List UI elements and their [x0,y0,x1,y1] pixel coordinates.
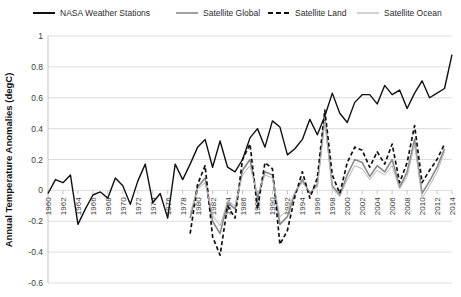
legend-label-3: Satellite Ocean [384,8,442,18]
x-tick-label-9: 1978 [179,197,188,215]
y-tick-label-8: -0.6 [28,278,43,288]
legend-label-2: Satellite Land [295,8,347,18]
y-tick-label-7: -0.4 [28,247,43,257]
y-tick-label-5: 0 [38,185,43,195]
legend-label-1: Satellite Global [203,8,260,18]
y-tick-label-4: 0.2 [31,155,43,165]
x-tick-label-22: 2004 [373,197,382,215]
x-tick-label-21: 2002 [358,197,367,215]
chart-container: NASA Weather StationsSatellite GlobalSat… [0,0,461,297]
x-tick-label-13: 1986 [239,197,248,215]
x-tick-label-26: 2012 [433,197,442,215]
x-tick-label-4: 1968 [104,197,113,215]
x-tick-label-7: 1974 [149,197,158,215]
y-tick-label-6: -0.2 [28,216,43,226]
y-tick-label-0: 1 [38,31,43,41]
legend-label-0: NASA Weather Stations [60,8,150,18]
x-tick-label-25: 2010 [418,197,427,215]
axis-tickmarks [48,190,452,194]
y-axis-title: Annual Temperature Anomalies (degC) [3,73,14,248]
x-axis-tick-labels: 1960196219641966196819701972197419761978… [44,197,457,215]
x-tick-label-0: 1960 [44,197,53,215]
x-tick-label-5: 1970 [119,197,128,215]
x-tick-label-17: 1994 [298,197,307,215]
y-tick-label-2: 0.6 [31,93,43,103]
temperature-anomalies-line-chart: NASA Weather StationsSatellite GlobalSat… [0,0,461,297]
x-tick-label-6: 1972 [134,197,143,215]
x-tick-label-20: 2000 [343,197,352,215]
x-tick-label-23: 2006 [388,197,397,215]
x-tick-label-18: 1996 [313,197,322,215]
y-tick-label-3: 0.4 [31,124,43,134]
y-axis-tick-labels: 10.80.60.40.20-0.2-0.4-0.6 [28,31,43,288]
data-series [48,55,452,256]
x-tick-label-24: 2008 [403,197,412,215]
x-tick-label-27: 2014 [448,197,457,215]
y-tick-label-1: 0.8 [31,62,43,72]
x-tick-label-1: 1962 [59,197,68,215]
x-tick-label-19: 1998 [328,197,337,215]
chart-legend: NASA Weather StationsSatellite GlobalSat… [33,8,442,18]
